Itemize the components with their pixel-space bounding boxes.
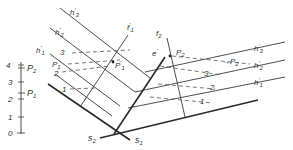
scale-label-0: 0	[8, 129, 13, 138]
right-h1-label: h'1	[254, 77, 263, 88]
e-prime-label: e'	[152, 48, 158, 58]
right-height-2: 2	[209, 83, 215, 92]
plane-traces: s2 s1	[48, 84, 258, 146]
f2-label: f2	[156, 29, 162, 39]
trace-s2-label: s2	[88, 133, 97, 144]
left-contour-h3	[60, 8, 150, 78]
right-dash-2	[158, 84, 215, 89]
point-p1-prime	[112, 61, 115, 64]
left-h2-label: h'2	[55, 27, 65, 38]
trace-s1	[48, 84, 130, 140]
left-dash-2	[62, 66, 110, 72]
right-dash-3	[160, 66, 222, 75]
line-f1-prime	[80, 35, 128, 107]
scale-p2-label: P2	[27, 63, 37, 74]
left-dashed-projections: 3 2 1 P1 P'1	[52, 48, 130, 94]
left-p1-prime-label: P'1	[115, 60, 125, 71]
right-p2-label: P2	[176, 48, 185, 58]
left-height-3: 3	[60, 48, 65, 57]
trace-s1-label: s1	[135, 135, 143, 146]
height-scale: 0 1 2 3 4 P1 P2	[6, 61, 37, 138]
left-h3-label: h'3	[70, 7, 80, 18]
scale-label-1: 1	[8, 113, 12, 122]
left-h1-label: h'1	[36, 45, 45, 56]
f1-prime-label: f'1	[127, 22, 134, 33]
scale-label-4: 4	[6, 61, 11, 70]
scale-label-2: 2	[7, 95, 13, 104]
scale-label-3: 3	[8, 78, 13, 87]
scale-p1-label: P1	[27, 88, 36, 99]
left-height-1: 1	[62, 85, 66, 94]
right-height-3: 3	[204, 69, 209, 78]
right-lines: f2 e'	[114, 29, 185, 134]
point-p2	[169, 55, 172, 58]
right-height-1: 1	[200, 97, 204, 106]
right-p2-arrow-label: →P2	[222, 57, 239, 67]
right-dashed-projections: P2 →P2 3 2 1	[150, 48, 250, 106]
geometry-figure: 0 1 2 3 4 P1 P2 s2 s1 h'3 h'2 h'1 f'1 3 …	[0, 0, 293, 150]
right-contour-h3	[145, 42, 285, 72]
right-h2-label: h'2	[254, 60, 264, 71]
left-height-2: 2	[53, 69, 59, 78]
left-contour-h1	[50, 54, 120, 106]
diagram-canvas: 0 1 2 3 4 P1 P2 s2 s1 h'3 h'2 h'1 f'1 3 …	[0, 0, 293, 150]
right-h3-label: h'3	[254, 43, 264, 54]
left-f-line: f'1	[80, 22, 134, 107]
